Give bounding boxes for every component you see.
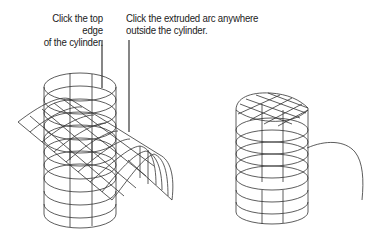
drawing-canvas	[0, 0, 381, 236]
right-trimmed-cylinder	[236, 93, 308, 224]
right-arc-curve	[307, 142, 363, 200]
